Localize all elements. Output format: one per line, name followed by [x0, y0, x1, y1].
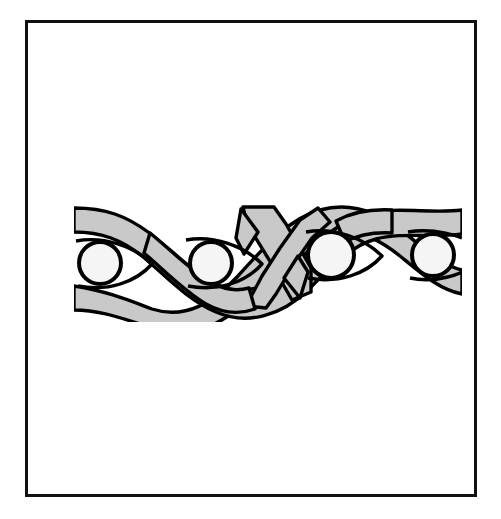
medallion-1 [79, 242, 121, 284]
medallion-2 [190, 242, 232, 284]
interlace-braid-pattern [0, 0, 501, 519]
medallion-4 [412, 234, 454, 276]
medallion-3 [308, 232, 354, 278]
illustration-page [0, 0, 501, 519]
